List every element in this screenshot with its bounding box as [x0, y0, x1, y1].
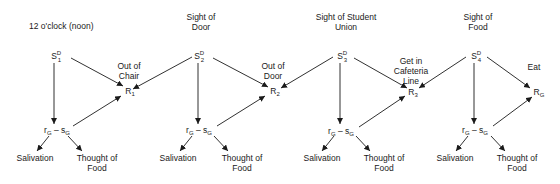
outcome-thought-3: Thought ofFood [364, 153, 405, 173]
response-node-1: R1 [125, 86, 134, 99]
outcome-thought-1: Thought ofFood [77, 153, 118, 173]
arrow-goal1-to-thought1 [68, 136, 82, 151]
response-node-3: R3 [408, 87, 417, 100]
arrow-goal1-to-r1 [73, 96, 121, 126]
stimulus-caption-3: Sight of StudentUnion [316, 12, 377, 32]
stimulus-node-4: SD4 [471, 51, 483, 61]
goal-node-3: rG – sG [328, 126, 354, 139]
stimulus-node-2: SD2 [194, 51, 206, 61]
response-caption-4: Eat [528, 62, 541, 72]
caption-line: Chair [117, 71, 140, 81]
arrow-goal4-to-thought4 [491, 136, 505, 151]
arrow-s1-to-r1 [71, 58, 123, 86]
arrow-goal3-to-r3 [359, 96, 405, 127]
arrow-goal2-to-salivation2 [180, 136, 192, 151]
stimulus-sub: 1 [58, 55, 61, 65]
response-caption-2: Out ofDoor [261, 61, 284, 81]
outcome-salivation-4: Salivation [437, 153, 474, 163]
outcome-thought-4: Thought ofFood [497, 153, 538, 173]
arrow-s3-to-r2 [281, 57, 333, 88]
arrow-goal2-to-thought2 [214, 136, 228, 151]
arrow-goal3-to-thought3 [356, 136, 370, 151]
outcome-thought-2: Thought ofFood [222, 153, 263, 173]
stimulus-node-3: SD3 [337, 51, 349, 61]
goal-node-1: rG – sG [44, 125, 70, 138]
outcome-salivation-3: Salivation [304, 153, 341, 163]
goal-node-4: rG – sG [462, 125, 488, 138]
arrow-goal4-to-rg [493, 97, 532, 126]
arrow-s4-to-rg [487, 57, 530, 88]
stimulus-caption-2: Sight ofDoor [187, 12, 216, 32]
response-caption-3: Get inCafeteriaLine [394, 56, 429, 86]
response-sub: 1 [131, 91, 134, 97]
stimulus-node-1: SD1 [51, 51, 63, 61]
stimulus-caption-1: 12 o'clock (noon) [29, 21, 93, 31]
goal-node-2: rG – sG [186, 125, 212, 138]
outcome-salivation-2: Salivation [160, 153, 197, 163]
caption-line: Out of [117, 61, 140, 71]
response-node-2: R2 [270, 86, 279, 99]
outcome-salivation-1: Salivation [17, 153, 54, 163]
arrow-goal4-to-salivation4 [456, 136, 468, 151]
arrow-s2-to-r2 [213, 58, 268, 87]
arrow-goal1-to-salivation1 [37, 136, 49, 151]
arrow-goal2-to-r2 [217, 96, 265, 126]
response-caption-1: Out ofChair [117, 61, 140, 81]
stimulus-caption-4: Sight ofFood [464, 12, 493, 32]
arrow-s2-to-r1 [133, 57, 192, 89]
response-node-goal: RG [534, 87, 545, 100]
